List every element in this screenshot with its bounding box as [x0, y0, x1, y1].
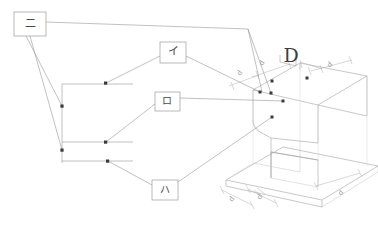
dim-label-top-b: d: [257, 58, 266, 67]
technical-drawing-svg: 二 イ ロ ハ D d d d d d d: [0, 0, 378, 229]
leader-arrow-markers: [60, 77, 308, 163]
part-base-plate: [226, 140, 378, 207]
callout-box-i[interactable]: イ: [160, 42, 186, 63]
callout-ha-label: ハ: [160, 184, 170, 195]
callout-box-ro[interactable]: ロ: [155, 92, 180, 111]
callout-i-label: イ: [168, 45, 179, 58]
callout-ni-label: 二: [25, 17, 36, 30]
callout-box-ni[interactable]: 二: [14, 12, 46, 36]
leader-from-callout-ha: [108, 117, 272, 185]
leader-network-left: [62, 84, 133, 163]
dim-label-base-a: d: [227, 194, 236, 203]
leader-from-callout-ni: [26, 22, 271, 150]
callout-ro-label: ロ: [162, 95, 172, 106]
part-top-face: [253, 63, 367, 105]
callout-box-ha[interactable]: ハ: [152, 180, 178, 200]
dim-label-base-c: d: [336, 188, 345, 197]
dimension-lines-base: [220, 169, 362, 209]
dim-label-top-a: d: [235, 68, 244, 77]
drawing-canvas: 二 イ ロ ハ D d d d d d d: [0, 0, 378, 229]
leader-from-callout-ro: [106, 98, 283, 142]
section-letter-d: D: [283, 44, 298, 66]
part-construction-lines: [226, 63, 367, 180]
